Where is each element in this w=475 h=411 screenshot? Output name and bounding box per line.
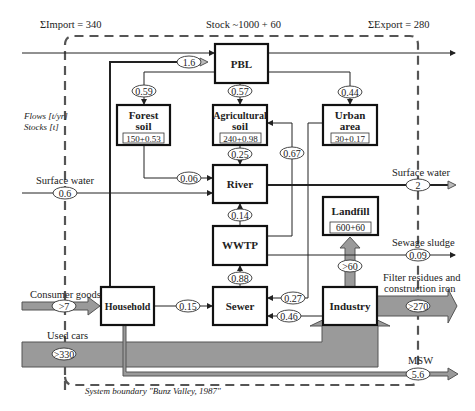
flow-value-industry-to-sewer: 0.46 [277, 310, 301, 322]
flow-value-surface-water-out: 2 [406, 179, 430, 191]
surface-water-in-label: Surface water [36, 175, 95, 186]
forest-soil-stock: 150+0.53 [126, 134, 161, 144]
flow-value-industry-to-landfill: >60 [338, 260, 362, 272]
process-industry: Industry [323, 287, 377, 325]
svg-text:Industry: Industry [330, 300, 371, 312]
process-household: Household [101, 287, 154, 325]
flow-value-sewage-sludge: 0.09 [406, 249, 430, 261]
flow-value-wwtp-to-agri: 0.67 [280, 147, 304, 159]
svg-text:0.25: 0.25 [231, 149, 249, 160]
used-cars-label: Used cars [47, 330, 88, 341]
svg-text:0.27: 0.27 [284, 293, 302, 304]
import-label: ΣImport = 340 [40, 19, 102, 30]
svg-text:soil: soil [136, 120, 152, 132]
flow-value-urban-to-sewer: 0.27 [281, 292, 305, 304]
flow-value-used-cars: >330 [52, 348, 76, 360]
sewage-sludge-label: Sewage sludge [392, 237, 455, 248]
flow-value-forest-to-river: 0.06 [177, 172, 201, 184]
flow-value-agri-to-river: 0.25 [228, 148, 252, 160]
flow-value-surface-water-in: 0.6 [53, 187, 77, 199]
process-river: River [213, 165, 267, 203]
svg-text:Landfill: Landfill [332, 205, 370, 217]
export-label: ΣExport = 280 [368, 19, 430, 30]
msw-label: MSW [408, 355, 433, 366]
surface-water-out-label: Surface water [392, 167, 451, 178]
flow-value-filter-residues: >270 [406, 300, 430, 312]
flow-value-msw: 5.6 [406, 368, 430, 380]
flow-value-pbl-to-urban: 0.44 [338, 86, 362, 98]
svg-text:>270: >270 [408, 301, 429, 312]
svg-text:Sewer: Sewer [226, 300, 255, 312]
svg-text:0.6: 0.6 [59, 188, 72, 199]
stock-label: Stock ~1000 + 60 [206, 19, 281, 30]
flow-value-sewer-to-wwtp: 0.88 [228, 272, 252, 284]
svg-text:0.88: 0.88 [231, 273, 249, 284]
svg-text:0.15: 0.15 [179, 301, 197, 312]
svg-text:>330: >330 [54, 349, 75, 360]
filter-residues-label-2: construction iron [384, 283, 456, 294]
svg-text:PBL: PBL [231, 58, 252, 70]
filter-residues-label-1: Filter residues and [383, 272, 461, 283]
svg-text:0.57: 0.57 [231, 86, 249, 97]
process-pbl: PBL [215, 44, 268, 83]
flow-value-wwtp-to-river: 0.14 [228, 209, 252, 221]
system-boundary-label: System boundary "Bunz Valley, 1987" [85, 386, 221, 396]
flow-value-pbl-to-agri: 0.57 [228, 85, 252, 97]
svg-text:WWTP: WWTP [222, 239, 258, 251]
svg-text:River: River [227, 178, 253, 190]
svg-text:1.6: 1.6 [183, 57, 196, 68]
process-wwtp: WWTP [213, 226, 267, 265]
svg-text:0.67: 0.67 [283, 148, 301, 159]
flows-unit-label: Flows [t/yr] [23, 111, 68, 121]
svg-text:0.09: 0.09 [409, 250, 427, 261]
consumer-goods-label: Consumer goods [30, 289, 101, 300]
landfill-stock: 600+60 [336, 223, 365, 233]
process-urban-area: Urban area 30+0.17 [323, 105, 377, 145]
flow-value-pbl-to-forest: 0.59 [132, 85, 156, 97]
svg-text:>7: >7 [59, 301, 70, 312]
svg-text:area: area [340, 120, 361, 132]
svg-text:2: 2 [416, 180, 421, 191]
svg-text:0.44: 0.44 [341, 87, 359, 98]
agricultural-soil-stock: 240+0.98 [223, 134, 258, 144]
process-forest-soil: Forest soil 150+0.53 [117, 105, 170, 145]
process-sewer: Sewer [213, 287, 267, 325]
mfa-diagram: PBL Forest soil 150+0.53 Agricultural so… [0, 0, 475, 411]
stocks-unit-label: Stocks [t] [24, 122, 59, 132]
flow-value-household-to-sewer: 0.15 [176, 300, 200, 312]
svg-text:0.06: 0.06 [180, 173, 198, 184]
svg-text:5.6: 5.6 [412, 369, 425, 380]
flow-value-consumer-goods: >7 [52, 300, 76, 312]
svg-text:soil: soil [232, 120, 248, 132]
process-landfill: Landfill 600+60 [323, 197, 378, 235]
svg-text:0.46: 0.46 [280, 311, 298, 322]
urban-area-stock: 30+0.17 [335, 134, 365, 144]
svg-text:Household: Household [105, 301, 151, 312]
flow-value-household-to-pbl: 1.6 [177, 56, 201, 68]
svg-text:0.59: 0.59 [135, 86, 153, 97]
svg-text:0.14: 0.14 [231, 210, 249, 221]
svg-text:>60: >60 [342, 261, 358, 272]
process-agricultural-soil: Agricultural soil 240+0.98 [213, 105, 267, 145]
